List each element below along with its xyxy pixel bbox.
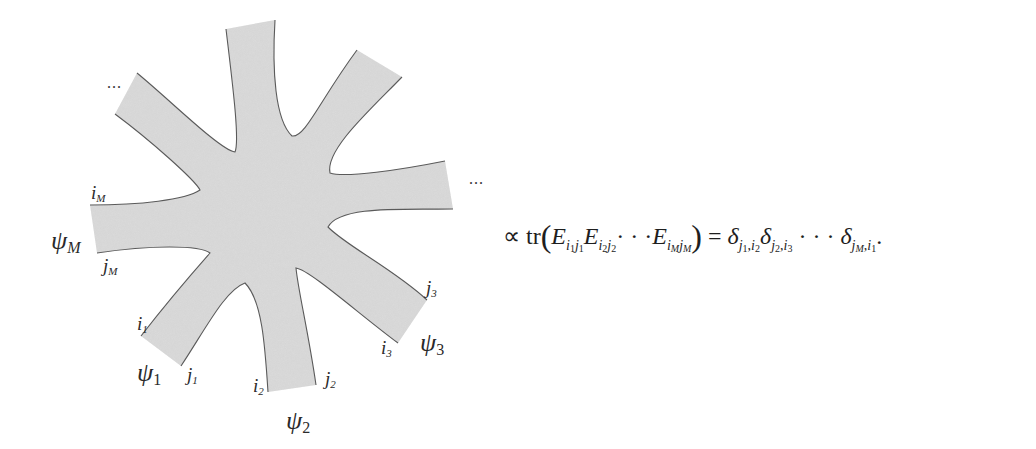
matrix-E-2: E [584, 223, 599, 249]
right-paren: ) [691, 218, 702, 254]
left-paren: ( [541, 218, 552, 254]
label-psi-2: ψ2 [286, 408, 310, 436]
delta-M: δ [840, 223, 851, 249]
label-i-M: iM [91, 183, 105, 204]
label-j-1: j1 [187, 365, 198, 386]
label-psi-1: ψ1 [137, 360, 161, 388]
label-i-1: i1 [137, 314, 148, 335]
propto-symbol: ∝ [503, 223, 520, 249]
matrix-E-1: E [551, 223, 566, 249]
period: . [876, 223, 882, 249]
label-psi-M: ψM [51, 228, 80, 256]
label-i-3: i3 [381, 338, 392, 359]
matrix-E-M: E [652, 223, 667, 249]
trace-formula: ∝ tr(Ei1j1Ei2j2· · ·EiMjM) = δj1,i2δj2,i… [503, 218, 882, 255]
label-j-M: jM [103, 256, 117, 277]
ribbon-vertex-diagram [0, 0, 480, 449]
label-j-3: j3 [426, 278, 437, 299]
label-j-2: j2 [325, 369, 336, 390]
label-psi-3: ψ3 [420, 330, 444, 358]
cdots-2: · · · [798, 223, 834, 249]
ellipsis-right: ... [469, 170, 484, 188]
cdots: · · · [616, 223, 652, 249]
delta-2: δ [760, 223, 771, 249]
label-i-2: i2 [253, 376, 264, 397]
ellipsis-top-left: ... [107, 74, 122, 92]
delta-1: δ [728, 223, 739, 249]
trace-operator: tr [526, 223, 541, 249]
equals-sign: = [708, 223, 722, 249]
vertex-body [90, 20, 453, 392]
